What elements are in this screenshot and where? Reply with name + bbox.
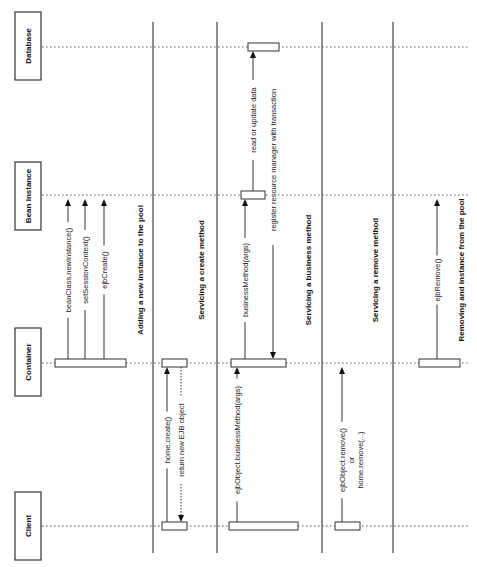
actor-label: Container: [24, 343, 33, 380]
section-titles: Adding a new instance to the poolServici…: [136, 198, 466, 341]
message: ejbObject.remove()orhome.remove(...): [338, 367, 365, 522]
section-title: Servicing a business method: [304, 215, 313, 326]
arrowhead-icon: [270, 352, 276, 359]
message-label: ejbObject.businessMethod(args): [233, 386, 242, 494]
message: read or update data: [249, 51, 258, 191]
message-label: return new EJB object: [177, 402, 186, 476]
message: ejbCreate(): [100, 199, 109, 359]
activation-container: [419, 359, 460, 367]
arrowhead-icon: [65, 199, 71, 206]
message-label: beanClass.newInstance(): [64, 227, 73, 312]
sequence-diagram: DatabaseBean InstanceContainerClient bea…: [0, 0, 477, 567]
actor-client: Client: [15, 492, 41, 560]
actor-label: Client: [24, 515, 33, 538]
message: businessMethod(args): [241, 199, 250, 359]
arrowhead-icon: [101, 199, 107, 206]
messages: beanClass.newInstance()setSessionContext…: [64, 51, 442, 522]
activation-bean: [241, 191, 265, 199]
activation-client: [229, 522, 298, 530]
message-label: ejbCreate(): [100, 251, 109, 289]
activation-client: [335, 522, 360, 530]
message-label: or: [347, 456, 356, 463]
section-title: Servicing a remove method: [371, 218, 380, 323]
message-label: read or update data: [249, 86, 258, 152]
arrowhead-icon: [178, 515, 184, 522]
actor-label: Database: [24, 28, 33, 64]
arrowhead-icon: [250, 51, 256, 58]
arrowhead-icon: [234, 367, 240, 374]
arrowhead-icon: [434, 199, 440, 206]
message-label: ejbObject.remove(): [338, 428, 347, 492]
message: home.create(): [163, 367, 172, 522]
message: beanClass.newInstance(): [64, 199, 73, 359]
activation-container: [55, 359, 126, 367]
section-title: Servicing a create method: [197, 220, 206, 320]
message: setSessionContext(): [81, 199, 90, 359]
message-label: setSessionContext(): [81, 236, 90, 304]
message-label: register resource manager with transacti…: [269, 89, 278, 231]
message-label: ejbRemove(): [433, 258, 442, 301]
actor-label: Bean Instance: [24, 168, 33, 223]
activation-container: [231, 359, 286, 367]
actor-bean: Bean Instance: [15, 162, 41, 230]
message: register resource manager with transacti…: [269, 75, 278, 359]
message: return new EJB object: [177, 367, 186, 522]
message-label: home.create(): [163, 416, 172, 463]
arrowhead-icon: [82, 199, 88, 206]
arrowhead-icon: [242, 199, 248, 206]
section-title: Removing and instance from the pool: [457, 198, 466, 341]
arrowhead-icon: [339, 367, 345, 374]
arrowhead-icon: [164, 367, 170, 374]
activation-container: [162, 359, 187, 367]
actor-database: Database: [15, 12, 41, 80]
activation-database: [248, 43, 279, 51]
actors: DatabaseBean InstanceContainerClient: [15, 12, 41, 560]
message-label: businessMethod(args): [241, 242, 250, 317]
activation-client: [162, 522, 187, 530]
message: ejbObject.businessMethod(args): [233, 367, 242, 522]
message: ejbRemove(): [433, 199, 442, 359]
section-title: Adding a new instance to the pool: [136, 205, 145, 335]
actor-container: Container: [15, 328, 41, 396]
message-label: home.remove(...): [356, 431, 365, 489]
